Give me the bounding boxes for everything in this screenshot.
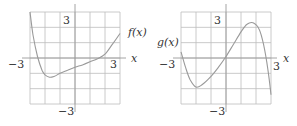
tick-y-bottom-g: −3 bbox=[209, 105, 225, 118]
tick-x-right-g: 3 bbox=[273, 60, 280, 73]
tick-x-left-g: −3 bbox=[159, 58, 175, 71]
x-axis-label-f: x bbox=[131, 52, 138, 65]
function-label-g: g(x) bbox=[157, 36, 179, 49]
function-label-f: f(x) bbox=[127, 26, 147, 39]
chart-f: 3 −3 −3 3 f(x) x bbox=[8, 4, 147, 118]
tick-y-top-g: 3 bbox=[214, 14, 221, 27]
chart-g: 3 −3 −3 3 g(x) x bbox=[157, 4, 290, 118]
tick-y-top-f: 3 bbox=[63, 14, 70, 27]
x-axis-label-g: x bbox=[283, 52, 290, 65]
tick-x-left-f: −3 bbox=[8, 58, 24, 71]
tick-y-bottom-f: −3 bbox=[58, 105, 74, 118]
charts-figure: 3 −3 −3 3 f(x) x 3 −3 −3 3 g(x) x bbox=[0, 0, 297, 126]
tick-x-right-f: 3 bbox=[110, 58, 117, 71]
